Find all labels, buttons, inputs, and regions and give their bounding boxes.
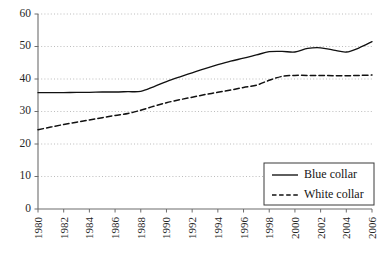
line-chart: 0102030405060 19801982198419861988199019…	[0, 0, 387, 266]
y-tick-label: 50	[20, 39, 32, 51]
legend: Blue collarWhite collar	[264, 163, 374, 205]
x-tick-label: 1996	[238, 217, 250, 240]
x-tick-label: 1986	[109, 217, 121, 240]
y-tick-labels-group: 0102030405060	[20, 7, 32, 214]
x-tick-label: 2006	[366, 217, 378, 240]
x-tick-label: 2004	[340, 217, 352, 240]
y-tick-label: 0	[25, 202, 31, 214]
y-tick-label: 30	[20, 104, 32, 116]
y-tick-label: 10	[20, 169, 32, 181]
legend-label-blue-collar: Blue collar	[304, 167, 357, 181]
series-line-white-collar	[38, 75, 372, 130]
y-tick-label: 20	[20, 137, 32, 149]
x-tick-label: 1992	[186, 217, 198, 239]
x-tick-label: 2000	[289, 217, 301, 240]
x-tick-label: 1980	[32, 217, 44, 240]
x-tick-label: 1982	[58, 217, 70, 239]
x-tick-label: 1994	[212, 217, 224, 240]
x-tick-label: 2002	[315, 217, 327, 239]
x-tick-label: 1990	[160, 217, 172, 240]
chart-canvas: 0102030405060 19801982198419861988199019…	[0, 0, 387, 266]
x-tick-label: 1988	[135, 217, 147, 240]
series-line-blue-collar	[38, 42, 372, 93]
x-tick-labels-group: 1980198219841986198819901992199419961998…	[32, 217, 378, 240]
x-tick-label: 1984	[83, 217, 95, 240]
x-tick-label: 1998	[263, 217, 275, 240]
y-tick-label: 40	[20, 72, 32, 84]
y-tick-label: 60	[20, 7, 32, 19]
legend-label-white-collar: White collar	[304, 187, 364, 201]
series-group	[38, 42, 372, 130]
